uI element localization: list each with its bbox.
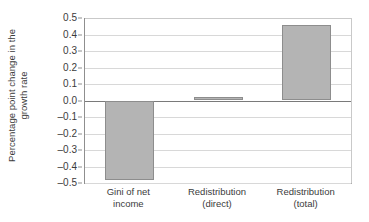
y-axis-tick-mark xyxy=(78,67,82,68)
y-axis-tick-label: 0.4 xyxy=(63,30,77,40)
y-axis-tick-label: –0.5 xyxy=(58,178,77,188)
x-axis-label-line: (direct) xyxy=(188,198,246,210)
x-axis-label-line: (total) xyxy=(277,198,335,210)
gridline xyxy=(85,18,351,19)
y-axis-title-line-1: Percentage point change in the xyxy=(6,28,18,161)
y-axis-tick-mark xyxy=(78,84,82,85)
y-axis-tick-label: 0.1 xyxy=(63,79,77,89)
x-axis-label-line: Redistribution xyxy=(188,186,246,198)
y-axis-title-line-2: growth rate xyxy=(17,28,29,161)
y-axis-tick-labels: 0.50.40.30.20.10.0–0.1–0.2–0.3–0.4–0.5 xyxy=(34,18,82,184)
y-axis-tick-mark xyxy=(78,117,82,118)
bar xyxy=(194,97,243,100)
y-axis-tick-label: –0.2 xyxy=(58,129,77,139)
plot-area xyxy=(84,18,352,184)
y-axis-tick-mark xyxy=(78,166,82,167)
bar xyxy=(282,25,331,101)
x-axis-label-line: Gini of net xyxy=(107,186,150,198)
y-axis-tick-mark xyxy=(78,51,82,52)
x-axis-category-label: Gini of netincome xyxy=(107,186,150,210)
y-axis-tick-mark xyxy=(78,18,82,19)
y-axis-tick-label: 0.3 xyxy=(63,46,77,56)
y-axis-tick-label: 0.2 xyxy=(63,63,77,73)
y-axis-tick-mark xyxy=(78,183,82,184)
x-axis-category-labels: Gini of netincomeRedistribution(direct)R… xyxy=(84,186,352,222)
y-axis-tick-label: –0.3 xyxy=(58,145,77,155)
y-axis-tick-mark xyxy=(78,133,82,134)
y-axis-title: Percentage point change in the growth ra… xyxy=(0,0,34,190)
gridline xyxy=(85,183,351,184)
y-axis-tick-label: 0.5 xyxy=(63,13,77,23)
x-axis-label-line: Redistribution xyxy=(277,186,335,198)
y-axis-tick-label: –0.4 xyxy=(58,162,77,172)
bar-chart-figure: Percentage point change in the growth ra… xyxy=(0,0,369,222)
y-axis-tick-label: –0.1 xyxy=(58,112,77,122)
y-axis-tick-mark xyxy=(78,100,82,101)
bar xyxy=(105,101,154,180)
x-axis-category-label: Redistribution(direct) xyxy=(188,186,246,210)
x-axis-label-line: income xyxy=(107,198,150,210)
y-axis-tick-label: 0.0 xyxy=(63,96,77,106)
y-axis-tick-mark xyxy=(78,34,82,35)
x-axis-category-label: Redistribution(total) xyxy=(277,186,335,210)
y-axis-tick-mark xyxy=(78,150,82,151)
